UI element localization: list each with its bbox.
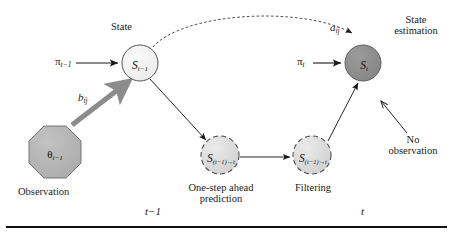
node-observation-octagon	[29, 126, 81, 178]
edge-no-observation-pointer	[381, 101, 407, 133]
diagram-canvas: St−1 State St State estimation S(t−1)→t …	[0, 0, 453, 237]
edge-a-ij-dashed-arc	[153, 16, 352, 47]
edge-label-b-ij-sub: ij	[84, 96, 88, 105]
annotation-no-observation-line1: No	[376, 134, 450, 145]
edge-label-b-ij: bij	[78, 92, 88, 105]
edge-label-a-ij-sub: ij	[336, 26, 340, 35]
caption-state-estimation: State estimation	[384, 14, 448, 36]
node-prediction	[201, 136, 239, 174]
axis-tick-left: t−1	[145, 206, 161, 218]
caption-observation: Observation	[18, 186, 69, 197]
caption-state-estimation-line1: State	[384, 14, 448, 25]
edge-label-a-ij: aij	[330, 22, 340, 35]
edge-label-pi-prev-sub: t−1	[61, 60, 72, 69]
annotation-no-observation: No observation	[376, 134, 450, 156]
edge-label-pi-prev: πt−1	[55, 56, 71, 69]
caption-state-estimation-line2: estimation	[384, 25, 448, 36]
axis-tick-right: t	[361, 206, 364, 218]
caption-prediction: One-step ahead prediction	[168, 182, 274, 204]
caption-prediction-line2: prediction	[168, 193, 274, 204]
annotation-no-observation-line2: observation	[376, 145, 450, 156]
caption-state: State	[111, 21, 132, 32]
node-filtering	[293, 136, 331, 174]
node-state-now	[345, 45, 381, 81]
caption-prediction-line1: One-step ahead	[168, 182, 274, 193]
edge-label-pi-now: πt	[297, 56, 305, 69]
bottom-divider	[6, 226, 447, 228]
caption-filtering: Filtering	[280, 182, 346, 193]
edge-filtering-to-state	[328, 83, 358, 141]
node-state-prev	[122, 45, 158, 81]
edge-label-pi-now-sub: t	[303, 60, 305, 69]
edge-state-to-prediction	[150, 79, 206, 140]
